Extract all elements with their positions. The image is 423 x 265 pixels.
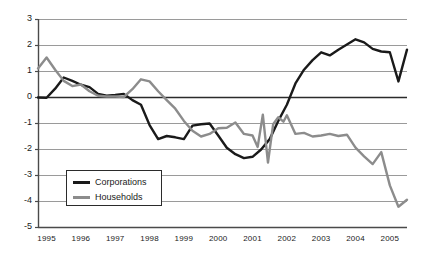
y-tick-label: -2 [18, 144, 32, 153]
y-tick-label: 2 [18, 40, 32, 49]
legend-swatch-corporations [73, 181, 90, 185]
y-tick-label: -3 [18, 170, 32, 179]
x-tick-label: 1995 [30, 235, 64, 243]
x-tick-label: 2001 [236, 235, 270, 243]
chart-plot-area [0, 0, 423, 265]
legend-label-households: Households [95, 193, 143, 202]
legend-item-corporations: Corporations [73, 176, 147, 189]
x-tick-label: 1999 [167, 235, 201, 243]
x-tick-label: 1996 [64, 235, 98, 243]
legend-item-households: Households [73, 191, 143, 204]
x-tick-label: 1998 [133, 235, 167, 243]
legend-swatch-households [73, 196, 90, 199]
x-tick-label: 1997 [98, 235, 132, 243]
y-tick-label: -4 [18, 196, 32, 205]
y-tick-label: 0 [18, 92, 32, 101]
y-tick-label: 1 [18, 66, 32, 75]
line-chart: 3210-1-2-3-4-5 1995199619971998199920002… [0, 0, 423, 265]
x-tick-label: 2000 [201, 235, 235, 243]
x-tick-label: 2005 [373, 235, 407, 243]
y-tick-label: -5 [18, 222, 32, 231]
y-tick-label: 3 [18, 14, 32, 23]
x-tick-label: 2004 [339, 235, 373, 243]
legend-label-corporations: Corporations [95, 178, 147, 187]
chart-legend: Corporations Households [66, 170, 162, 206]
x-tick-label: 2002 [270, 235, 304, 243]
x-tick-label: 2003 [304, 235, 338, 243]
y-tick-label: -1 [18, 118, 32, 127]
